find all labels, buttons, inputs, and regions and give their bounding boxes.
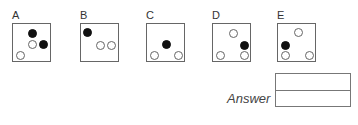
- open-circle-icon: [229, 29, 238, 38]
- open-circle-icon: [281, 51, 290, 60]
- option-label: D: [212, 9, 220, 21]
- answer-box[interactable]: [275, 73, 351, 107]
- filled-circle-icon: [240, 41, 249, 50]
- open-circle-icon: [150, 51, 159, 60]
- answer-label: Answer: [227, 91, 270, 106]
- option-label: A: [12, 9, 19, 21]
- open-circle-icon: [240, 51, 249, 60]
- option-box[interactable]: [80, 23, 119, 62]
- option-box[interactable]: [12, 23, 51, 62]
- open-circle-icon: [16, 51, 25, 60]
- filled-circle-icon: [39, 40, 48, 49]
- option-label: B: [80, 9, 87, 21]
- answer-row-top[interactable]: [276, 74, 350, 90]
- open-circle-icon: [174, 51, 183, 60]
- open-circle-icon: [294, 28, 303, 37]
- open-circle-icon: [28, 40, 37, 49]
- open-circle-icon: [96, 41, 105, 50]
- option-label: E: [277, 9, 284, 21]
- open-circle-icon: [305, 51, 314, 60]
- open-circle-icon: [107, 41, 116, 50]
- option-box[interactable]: [277, 23, 316, 62]
- option-label: C: [146, 9, 154, 21]
- option-box[interactable]: [146, 23, 185, 62]
- option-box[interactable]: [212, 23, 251, 62]
- filled-circle-icon: [83, 28, 92, 37]
- open-circle-icon: [216, 51, 225, 60]
- filled-circle-icon: [281, 41, 290, 50]
- filled-circle-icon: [162, 40, 171, 49]
- filled-circle-icon: [28, 29, 37, 38]
- answer-row-bottom[interactable]: [276, 90, 350, 106]
